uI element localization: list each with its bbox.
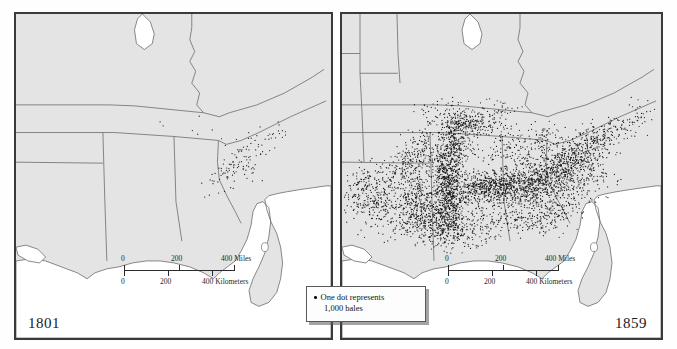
map-legend: One dot represents 1,000 bales xyxy=(306,286,426,322)
scale-label-top-200: 200 xyxy=(495,254,506,263)
year-label-1859: 1859 xyxy=(615,315,647,332)
scale-bar-1859: 0 200 400 Miles 0 200 400 Kilometers xyxy=(440,252,570,292)
map-panel-1801: 0 200 400 Miles 0 200 400 Kilometers 180… xyxy=(14,12,333,340)
scale-label-bot-400: 400 Kilometers xyxy=(526,277,572,286)
figure-root: 0 200 400 Miles 0 200 400 Kilometers 180… xyxy=(0,0,677,349)
scale-label-top-400: 400 Miles xyxy=(545,254,575,263)
scale-tick-bot-200 xyxy=(168,270,169,276)
scale-tick-bot-0 xyxy=(124,270,125,276)
legend-label-line1: One dot represents xyxy=(321,292,385,302)
scale-label-bot-0: 0 xyxy=(121,277,125,286)
scale-label-top-200: 200 xyxy=(171,254,182,263)
legend-content: One dot represents 1,000 bales xyxy=(314,292,384,314)
scale-tick-bot-200 xyxy=(492,270,493,276)
scale-label-top-0: 0 xyxy=(121,254,125,263)
scale-label-bot-200: 200 xyxy=(484,277,495,286)
scale-bar-1801: 0 200 400 Miles 0 200 400 Kilometers xyxy=(116,252,246,292)
scale-tick-bot-400 xyxy=(536,270,537,276)
scale-tick-top-200 xyxy=(179,265,180,271)
year-label-1801: 1801 xyxy=(28,315,60,332)
lake-okeechobee xyxy=(261,243,268,252)
scale-label-bot-400: 400 Kilometers xyxy=(202,277,248,286)
scale-tick-bot-0 xyxy=(448,270,449,276)
scale-tick-top-400 xyxy=(558,265,559,271)
legend-dot-icon xyxy=(314,296,317,299)
lake-okeechobee xyxy=(591,243,598,252)
legend-label-line2: 1,000 bales xyxy=(314,303,384,314)
legend-line-1: One dot represents xyxy=(314,292,384,303)
scale-label-top-400: 400 Miles xyxy=(221,254,251,263)
scale-label-bot-200: 200 xyxy=(160,277,171,286)
scale-tick-top-200 xyxy=(503,265,504,271)
scale-label-bot-0: 0 xyxy=(445,277,449,286)
scale-tick-bot-400 xyxy=(212,270,213,276)
scale-label-top-0: 0 xyxy=(445,254,449,263)
scale-tick-top-400 xyxy=(234,265,235,271)
